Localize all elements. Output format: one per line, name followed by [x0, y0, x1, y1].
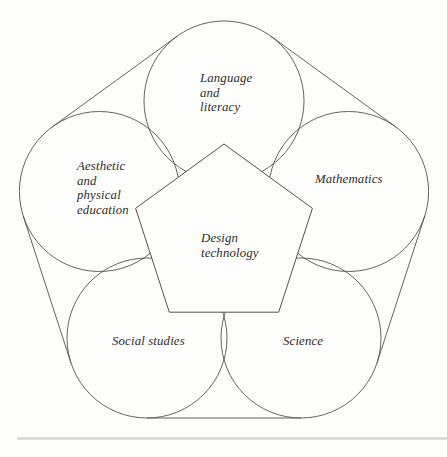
outer-tangent-line: [377, 216, 425, 363]
label-aesthetic-and-physical-education: Aestheticandphysicaleducation: [76, 159, 129, 217]
label-mathematics: Mathematics: [314, 172, 383, 186]
curriculum-subjects-diagram: LanguageandliteracyMathematicsScienceSoc…: [0, 0, 447, 457]
diagram-canvas: LanguageandliteracyMathematicsScienceSoc…: [0, 0, 447, 457]
outer-tangent-line: [23, 216, 71, 363]
label-language-and-literacy: Languageandliteracy: [199, 71, 253, 114]
label-social-studies: Social studies: [112, 334, 185, 348]
label-science: Science: [283, 334, 323, 348]
pentagon-design-technology: [136, 144, 313, 312]
